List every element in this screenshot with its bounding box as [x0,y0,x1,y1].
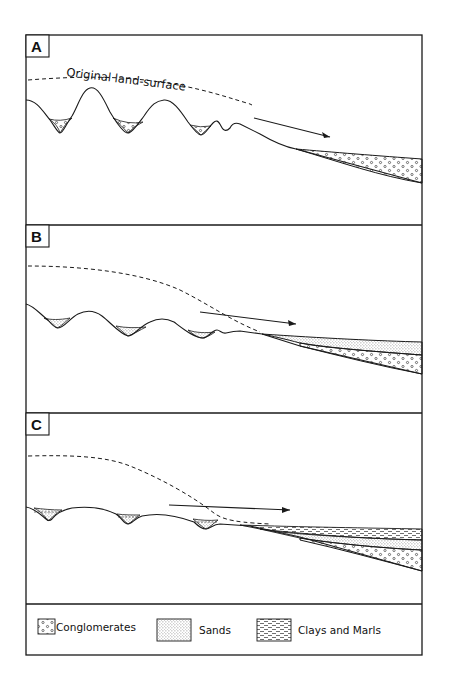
legend-label-clays: Clays and Marls [298,624,381,636]
arrow-head-icon [288,320,296,326]
panel-a: A Original land-surface [26,35,422,183]
legend-swatch-conglomerates [38,619,55,634]
panel-b: B [26,225,422,374]
flow-arrow [169,505,290,510]
valley-fill-sand [34,508,62,521]
flow-arrow [254,118,330,137]
panel-label: B [31,228,42,245]
panel-label: A [31,38,42,55]
geology-diagram: A Original land-surface B [0,0,449,694]
panel-label: C [31,416,42,433]
legend: Conglomerates Sands Clays and Marls [38,619,381,641]
valley-fill-conglomerate [113,118,143,133]
conglomerate-wedge [296,149,422,183]
legend-label-sands: Sands [199,624,231,636]
arrow-head-icon [282,507,290,513]
flow-arrow [200,312,296,324]
arrow-head-icon [322,132,330,138]
legend-swatch-sands [157,619,191,641]
panel-c: C [26,413,422,571]
original-land-surface-line [28,456,270,524]
legend-swatch-clays [257,619,291,641]
original-land-surface-label: Original land-surface [66,65,187,94]
legend-label-conglomerates: Conglomerates [56,621,136,633]
